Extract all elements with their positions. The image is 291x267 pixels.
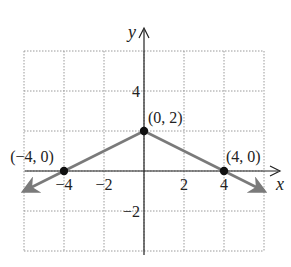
data-point: [220, 167, 228, 175]
point-label: (0, 2): [148, 109, 183, 127]
labels: (−4, 0)(0, 2)(4, 0)−4−2244−2xy: [10, 22, 284, 220]
y-tick-label: −2: [123, 203, 140, 220]
x-tick-label: 4: [220, 176, 228, 193]
point-label: (−4, 0): [10, 148, 54, 166]
point-label: (4, 0): [226, 148, 261, 166]
data-point: [60, 167, 68, 175]
data-point: [140, 127, 148, 135]
y-axis-label: y: [126, 22, 136, 42]
x-axis-label: x: [275, 174, 284, 194]
x-tick-label: −2: [95, 176, 112, 193]
y-tick-label: 4: [132, 83, 140, 100]
axes: [25, 28, 280, 255]
x-tick-label: −4: [55, 176, 72, 193]
x-tick-label: 2: [180, 176, 188, 193]
graph: (−4, 0)(0, 2)(4, 0)−4−2244−2xy: [0, 0, 291, 267]
